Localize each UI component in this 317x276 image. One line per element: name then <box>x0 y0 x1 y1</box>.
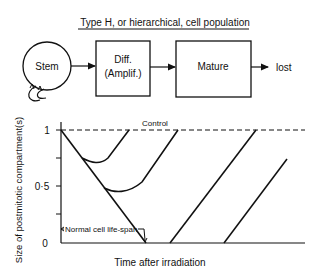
recovery-curve-3 <box>170 130 256 243</box>
diagram-title: Type H, or hierarchical, cell population <box>80 17 250 28</box>
figure: Type H, or hierarchical, cell population… <box>0 0 317 276</box>
y-axis-label: Size of postmitotic compartment(s) <box>13 117 24 263</box>
lifespan-label: Normal cell life-span <box>65 225 137 234</box>
lost-label: lost <box>276 62 292 73</box>
x-axis-label: Time after irradiation <box>114 257 205 268</box>
y-tick-label-1: 1 <box>44 125 50 136</box>
diff-label-line2: (Amplif.) <box>104 68 141 79</box>
diff-label-line1: Diff. <box>114 54 132 65</box>
y-tick-label-0-5: 0·5 <box>35 181 50 192</box>
recovery-curve-4 <box>224 159 287 243</box>
y-tick-label-0: 0 <box>42 238 48 249</box>
stem-label: Stem <box>35 61 58 72</box>
mature-label: Mature <box>197 61 229 72</box>
recovery-curve-1 <box>82 130 129 163</box>
control-label: Control <box>142 119 168 128</box>
recovery-curve-2 <box>104 130 178 192</box>
